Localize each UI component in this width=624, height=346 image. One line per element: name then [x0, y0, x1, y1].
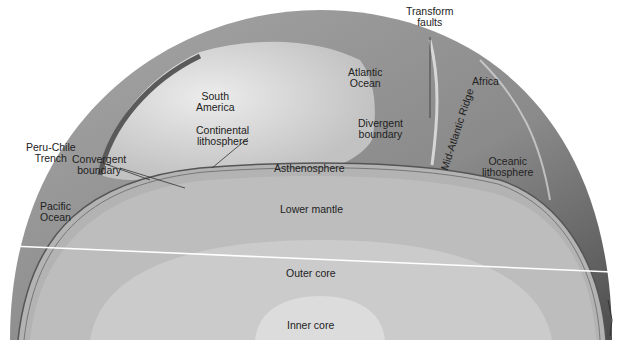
- label-pacific-ocean: PacificOcean: [40, 201, 71, 223]
- label-asthenosphere: Asthenosphere: [274, 163, 345, 174]
- label-inner-core: Inner core: [287, 320, 334, 331]
- south-america-landmass: [100, 42, 375, 180]
- label-continental-lithosphere: Continentallithosphere: [196, 125, 249, 147]
- label-convergent-boundary: Convergentboundary: [72, 154, 126, 176]
- label-peru-chile-trench: Peru-ChileTrench: [26, 142, 76, 164]
- label-south-america: SouthAmerica: [196, 91, 235, 113]
- label-outer-core: Outer core: [286, 268, 336, 279]
- label-oceanic-lithosphere: Oceaniclithosphere: [482, 156, 533, 178]
- label-transform-faults: Transformfaults: [406, 6, 453, 28]
- label-divergent-boundary: Divergentboundary: [358, 118, 403, 140]
- label-africa: Africa: [472, 76, 499, 87]
- label-atlantic-ocean: AtlanticOcean: [348, 67, 382, 89]
- label-lower-mantle: Lower mantle: [280, 204, 343, 215]
